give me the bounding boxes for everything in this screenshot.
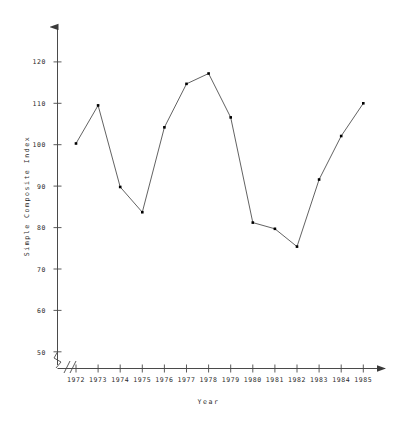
data-point-1983 xyxy=(318,178,321,181)
data-point-1985 xyxy=(362,102,365,105)
data-point-1979 xyxy=(229,116,232,119)
x-tick-label-1983: 1983 xyxy=(310,376,328,384)
data-point-1982 xyxy=(296,245,299,248)
x-tick-label-1981: 1981 xyxy=(266,376,284,384)
data-point-markers xyxy=(75,72,365,248)
y-tick-label-60: 60 xyxy=(26,307,46,315)
y-tick-label-110: 110 xyxy=(26,100,46,108)
data-point-1981 xyxy=(274,228,277,231)
data-point-1976 xyxy=(163,126,166,129)
y-tick-label-70: 70 xyxy=(26,266,46,274)
y-axis-title: Simple Composite Index xyxy=(23,126,31,266)
x-tick-label-1978: 1978 xyxy=(200,376,218,384)
data-point-1975 xyxy=(141,211,144,214)
x-tick-label-1984: 1984 xyxy=(332,376,350,384)
x-tick-label-1979: 1979 xyxy=(222,376,240,384)
x-tick-label-1973: 1973 xyxy=(89,376,107,384)
x-tick-label-1976: 1976 xyxy=(155,376,173,384)
x-tick-label-1972: 1972 xyxy=(67,376,85,384)
chart-canvas xyxy=(0,0,417,424)
x-axis-title: Year xyxy=(0,398,417,406)
data-point-1972 xyxy=(75,142,78,145)
x-tick-label-1975: 1975 xyxy=(133,376,151,384)
x-tick-label-1982: 1982 xyxy=(288,376,306,384)
data-point-1973 xyxy=(97,104,100,107)
data-line-series-1 xyxy=(76,74,363,247)
data-point-1984 xyxy=(340,135,343,138)
x-tick-label-1985: 1985 xyxy=(354,376,372,384)
x-tick-label-1977: 1977 xyxy=(177,376,195,384)
y-tick-label-50: 50 xyxy=(26,349,46,357)
data-point-1980 xyxy=(252,221,255,224)
data-point-1978 xyxy=(207,72,210,75)
x-tick-label-1974: 1974 xyxy=(111,376,129,384)
data-point-1977 xyxy=(185,83,188,86)
line-chart: 120 110 100 90 80 70 60 50 1972 1973 197… xyxy=(0,0,417,424)
data-point-1974 xyxy=(119,186,122,189)
y-tick-label-120: 120 xyxy=(26,58,46,66)
x-tick-label-1980: 1980 xyxy=(244,376,262,384)
